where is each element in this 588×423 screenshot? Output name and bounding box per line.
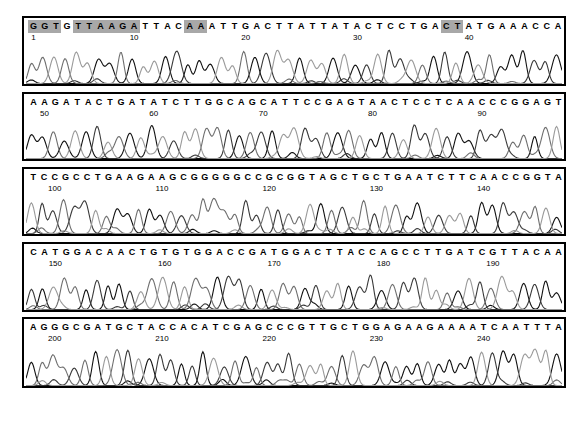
position-tick-label: 40	[465, 32, 474, 43]
position-ticks: 150160170180190	[28, 258, 562, 270]
position-tick-label: 190	[486, 258, 499, 269]
sequence-row: AGGGCGATGCTACCACATCGAGCCCGTTGCTGGAGAAGAA…	[28, 320, 562, 333]
position-tick-label: 180	[377, 258, 390, 269]
position-tick-label: 170	[267, 258, 280, 269]
trace-channel-A	[26, 51, 562, 84]
position-tick-label: 100	[48, 183, 61, 194]
trace-channel-C	[26, 275, 562, 309]
position-tick-label: 200	[48, 333, 61, 344]
position-tick-label: 80	[368, 108, 377, 119]
chromatogram-trace	[26, 45, 562, 84]
panel-inner: AGGGCGATGCTACCACATCGAGCCCGTTGCTGGAGAAGAA…	[24, 319, 564, 386]
trace-channel-T	[26, 349, 562, 385]
chromatogram-figure: GGTGTTAAGATTACAAATTGACTTATTATACTCCTGACTA…	[0, 0, 588, 423]
position-ticks: 200210220230240	[28, 333, 562, 345]
sequence-row: TCCGCCTGAAGAAGCGGGGGCCGCGGTAGCTGCTGAATCT…	[28, 170, 562, 183]
position-ticks: 5060708090	[28, 108, 562, 120]
position-tick-label: 160	[158, 258, 171, 269]
panel-inner: CATGGACAACTGTGTGGACCGATGGACTTACCAGCCTTGA…	[24, 244, 564, 310]
trace-channel-A	[26, 277, 562, 309]
position-tick-label: 240	[477, 333, 490, 344]
panel-inner: GGTGTTAAGATTACAAATTGACTTATTATACTCCTGACTA…	[24, 18, 564, 84]
position-tick-label: 90	[478, 108, 487, 119]
panel-inner: TCCGCCTGAAGAAGCGGGGGCCGCGGTAGCTGCTGAATCT…	[24, 169, 564, 234]
position-tick-label: 210	[155, 333, 168, 344]
position-ticks: 110203040	[28, 32, 562, 44]
position-tick-label: 1	[31, 32, 35, 43]
trace-channel-T	[26, 276, 562, 309]
position-tick-label: 130	[370, 183, 383, 194]
position-ticks: 100110120130140	[28, 183, 562, 195]
panel-2: AAGATACTGATATCTTGGCAGCATTCCGAGTAACTCCTCA…	[22, 92, 566, 161]
panel-inner: AAGATACTGATATCTTGGCAGCATTCCGAGTAACTCCTCA…	[24, 94, 564, 159]
sequence-row: GGTGTTAAGATTACAAATTGACTTATTATACTCCTGACTA…	[28, 19, 562, 32]
position-tick-label: 60	[149, 108, 158, 119]
position-tick-label: 120	[263, 183, 276, 194]
chromatogram-trace	[26, 121, 562, 159]
panel-3: TCCGCCTGAAGAAGCGGGGGCCGCGGTAGCTGCTGAATCT…	[22, 167, 566, 236]
position-tick-label: 30	[353, 32, 362, 43]
sequence-row: CATGGACAACTGTGTGGACCGATGGACTTACCAGCCTTGA…	[28, 245, 562, 258]
position-tick-label: 230	[370, 333, 383, 344]
chromatogram-trace	[26, 196, 562, 234]
position-tick-label: 220	[263, 333, 276, 344]
panel-5: AGGGCGATGCTACCACATCGAGCCCGTTGCTGGAGAAGAA…	[22, 317, 566, 388]
panel-1: GGTGTTAAGATTACAAATTGACTTATTATACTCCTGACTA…	[22, 16, 566, 86]
position-tick-label: 140	[477, 183, 490, 194]
position-tick-label: 20	[241, 32, 250, 43]
trace-channel-G	[26, 52, 562, 84]
position-tick-label: 110	[156, 183, 169, 194]
position-tick-label: 70	[259, 108, 268, 119]
sequence-row: AAGATACTGATATCTTGGCAGCATTCCGAGTAACTCCTCA…	[28, 95, 562, 108]
panel-4: CATGGACAACTGTGTGGACCGATGGACTTACCAGCCTTGA…	[22, 242, 566, 312]
position-tick-label: 50	[40, 108, 49, 119]
trace-channel-G	[26, 350, 562, 386]
trace-channel-C	[26, 50, 562, 83]
position-tick-label: 10	[130, 32, 139, 43]
trace-channel-G	[26, 278, 562, 310]
trace-channel-T	[26, 203, 562, 234]
chromatogram-trace	[26, 271, 562, 310]
trace-channel-T	[26, 50, 562, 83]
chromatogram-trace	[26, 346, 562, 386]
position-tick-label: 150	[49, 258, 62, 269]
